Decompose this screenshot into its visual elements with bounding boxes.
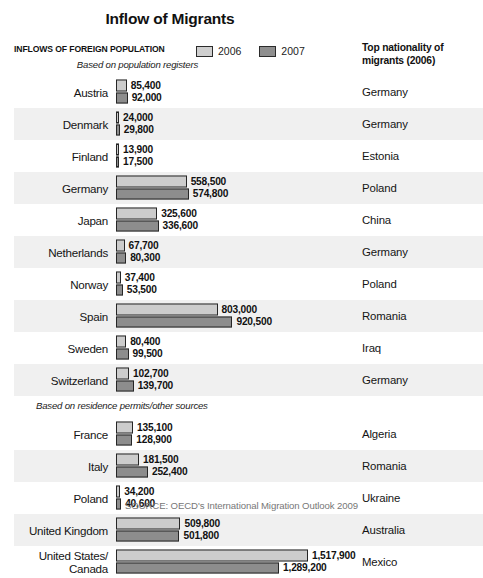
country-label: Denmark: [0, 118, 112, 131]
source-note: SOURCE: OECD's International Migration O…: [0, 500, 483, 511]
top-nationality-value: Germany: [362, 246, 408, 258]
bar-2006-line: 1,517,900: [116, 550, 456, 562]
bar-group: 37,40053,500: [116, 272, 456, 297]
legend-item-2007: 2007: [259, 45, 304, 57]
table-row: Germany558,500574,800Poland: [0, 172, 483, 204]
bar-2007: [116, 252, 126, 264]
bar-group: 80,40099,500: [116, 336, 456, 361]
bar-2006: [116, 336, 126, 348]
bar-2006-value: 67,700: [129, 240, 159, 251]
bar-2007-value: 1,289,200: [283, 562, 327, 573]
bar-2007: [116, 380, 134, 392]
bar-2006-value: 80,400: [130, 336, 160, 347]
bar-2006-line: 34,200: [116, 486, 456, 498]
legend-item-2006: 2006: [196, 45, 241, 57]
table-row: Italy181,500252,400Romania: [0, 450, 483, 482]
bar-2007-line: 1,289,200: [116, 562, 456, 574]
bar-2006-value: 558,500: [191, 176, 226, 187]
bar-2007-value: 252,400: [152, 466, 187, 477]
bar-2006-value: 102,700: [133, 368, 168, 379]
bar-2007-value: 128,900: [136, 434, 171, 445]
bar-2007-line: 128,900: [116, 434, 456, 446]
bar-2007: [116, 156, 119, 168]
table-row: Switzerland102,700139,700Germany: [0, 364, 483, 396]
country-label: Sweden: [0, 342, 112, 355]
country-label: France: [0, 428, 112, 441]
top-nationality-value: Iraq: [362, 342, 381, 354]
bar-2006-value: 24,000: [123, 112, 153, 123]
table-row: Spain803,000920,500Romania: [0, 300, 483, 332]
bar-2007-line: 574,800: [116, 188, 456, 200]
bar-2006: [116, 112, 119, 124]
country-label: United Kingdom: [0, 524, 112, 537]
bar-2007-value: 920,500: [236, 316, 271, 327]
left-column-header: INFLOWS OF FOREIGN POPULATION Based on p…: [14, 44, 204, 70]
bar-2007: [116, 530, 179, 542]
bar-2007: [116, 562, 279, 574]
top-nationality-header: Top nationality of migrants (2006): [362, 42, 480, 68]
table-row: United States/ Canada1,517,9001,289,200M…: [0, 546, 483, 578]
bar-2006-value: 803,000: [222, 304, 257, 315]
top-nationality-value: Algeria: [362, 428, 396, 440]
bar-2006: [116, 208, 157, 220]
legend-swatch-2007-icon: [259, 46, 276, 57]
bar-2007: [116, 92, 128, 104]
country-label: United States/ Canada: [0, 549, 112, 575]
bar-2007-line: 336,600: [116, 220, 456, 232]
bar-group: 135,100128,900: [116, 422, 456, 447]
table-row: Denmark24,00029,800Germany: [0, 108, 483, 140]
bar-2006-line: 37,400: [116, 272, 456, 284]
bar-2006-line: 325,600: [116, 208, 456, 220]
bar-2007: [116, 188, 189, 200]
bar-2006-value: 34,200: [124, 486, 154, 497]
top-nationality-value: Romania: [362, 310, 407, 322]
bar-2006-value: 509,800: [184, 518, 219, 529]
country-label: Finland: [0, 150, 112, 163]
table-row: Austria85,40092,000Germany: [0, 76, 483, 108]
bar-2007-line: 17,500: [116, 156, 456, 168]
bar-2006: [116, 486, 120, 498]
bar-2007-value: 139,700: [138, 380, 173, 391]
bar-group: 558,500574,800: [116, 176, 456, 201]
table-row: Netherlands67,70080,300Germany: [0, 236, 483, 268]
bar-2006: [116, 518, 180, 530]
section-subheading-text: Based on residence permits/other sources: [36, 400, 208, 411]
bar-group: 1,517,9001,289,200: [116, 550, 456, 575]
bar-2007: [116, 124, 120, 136]
bar-2006: [116, 454, 139, 466]
table-row: Japan325,600336,600China: [0, 204, 483, 236]
bar-2006: [116, 304, 218, 316]
bar-2007-value: 80,300: [130, 252, 160, 263]
bar-2007-value: 92,000: [132, 92, 162, 103]
country-label: Italy: [0, 460, 112, 473]
bar-2007-value: 29,800: [124, 124, 154, 135]
top-nationality-value: Estonia: [362, 150, 399, 162]
table-row: Finland13,90017,500Estonia: [0, 140, 483, 172]
bar-2007: [116, 348, 129, 360]
bar-2006-value: 85,400: [131, 80, 161, 91]
bar-2007: [116, 284, 123, 296]
bar-2006-value: 13,900: [123, 144, 153, 155]
bar-2006: [116, 176, 187, 188]
bar-2006-line: 135,100: [116, 422, 456, 434]
bar-2007: [116, 220, 159, 232]
bar-2006: [116, 80, 127, 92]
table-row: France135,100128,900Algeria: [0, 418, 483, 450]
top-nationality-value: Mexico: [362, 556, 397, 568]
bar-2007-value: 501,800: [183, 530, 218, 541]
top-nationality-value: Poland: [362, 182, 397, 194]
bar-2006: [116, 368, 129, 380]
bar-2006-value: 181,500: [143, 454, 178, 465]
bar-2007-value: 53,500: [127, 284, 157, 295]
bar-2006-value: 1,517,900: [312, 550, 356, 561]
bar-2006: [116, 422, 133, 434]
bar-2007-value: 99,500: [133, 348, 163, 359]
country-label: Spain: [0, 310, 112, 323]
bar-2007-value: 336,600: [163, 220, 198, 231]
top-nationality-value: Germany: [362, 86, 408, 98]
bar-2006-line: 80,400: [116, 336, 456, 348]
table-row: Norway37,40053,500Poland: [0, 268, 483, 300]
bar-2006-value: 325,600: [161, 208, 196, 219]
bar-2007: [116, 316, 232, 328]
